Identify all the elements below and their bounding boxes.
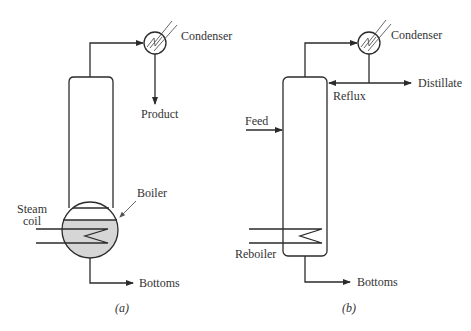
condenser-icon-a	[144, 21, 177, 54]
diagram-a: Condenser Product Boiler Steam coil Bott…	[17, 21, 232, 315]
reboiler-label: Reboiler	[235, 247, 276, 261]
caption-b: (b)	[342, 301, 356, 315]
distillation-diagrams: Condenser Product Boiler Steam coil Bott…	[0, 0, 471, 331]
vapor-line-b	[305, 43, 357, 77]
distillate-label: Distillate	[418, 76, 462, 90]
condenser-icon-b	[358, 20, 391, 54]
column-a	[69, 77, 113, 208]
reflux-label: Reflux	[333, 89, 366, 103]
bottoms-label-b: Bottoms	[357, 275, 398, 289]
steam-coil-label-2: coil	[23, 214, 42, 228]
boiler-vessel	[60, 202, 120, 260]
caption-a: (a)	[115, 301, 129, 315]
product-label: Product	[141, 107, 179, 121]
vapor-line-a	[90, 43, 143, 77]
bottoms-line-b	[305, 256, 350, 282]
bottoms-label-a: Bottoms	[139, 276, 180, 290]
condenser-label-b: Condenser	[391, 28, 442, 42]
bottoms-line-a	[90, 258, 133, 283]
feed-label: Feed	[245, 114, 268, 128]
boiler-pointer	[120, 201, 136, 217]
diagram-b: Condenser Distillate Reflux Feed Reboile…	[235, 20, 462, 315]
reboiler-coil	[249, 229, 322, 243]
boiler-label: Boiler	[137, 186, 167, 200]
condenser-label-a: Condenser	[181, 29, 232, 43]
